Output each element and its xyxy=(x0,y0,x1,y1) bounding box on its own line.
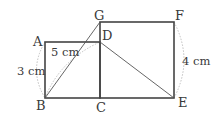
label-d: D xyxy=(102,28,112,43)
label-e: E xyxy=(178,95,188,110)
measure-ab: 3 cm xyxy=(17,64,45,78)
label-g: G xyxy=(94,8,104,23)
measure-bd: 5 cm xyxy=(51,45,79,59)
geometry-figure: A B C D G F E 3 cm 5 cm 4 cm xyxy=(0,0,215,117)
label-b: B xyxy=(36,98,46,113)
measure-ef: 4 cm xyxy=(182,54,210,68)
label-c: C xyxy=(96,100,106,115)
segment-de xyxy=(100,42,174,98)
label-a: A xyxy=(32,34,43,49)
segment-bg xyxy=(45,22,100,98)
label-f: F xyxy=(175,8,184,23)
